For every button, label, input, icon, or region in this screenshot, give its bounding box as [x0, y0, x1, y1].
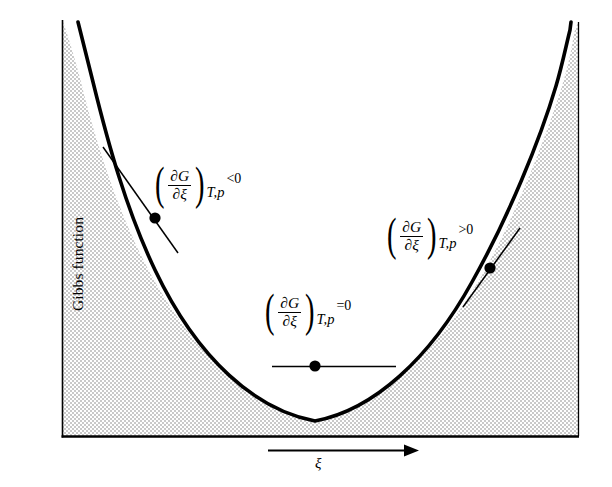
denominator-zero: ∂ξ [278, 313, 301, 329]
marker-zero-slope [309, 360, 320, 371]
x-axis-label: ξ [315, 455, 321, 472]
subscript-zero: T,p [317, 311, 335, 328]
relation-zero: =0 [336, 298, 351, 314]
right-paren-negative: ) [195, 167, 205, 201]
numerator-positive: ∂G [400, 219, 423, 235]
partial-derivative-expression-positive: (∂G∂ξ)T,p>0 [384, 219, 472, 254]
numerator-zero: ∂G [278, 295, 301, 311]
partial-derivative-expression-zero: (∂G∂ξ)T,p=0 [262, 295, 350, 330]
annotation-negative-slope: (∂G∂ξ)T,p<0 [152, 168, 240, 203]
annotation-positive-slope: (∂G∂ξ)T,p>0 [384, 219, 472, 254]
fraction-positive: ∂G∂ξ [399, 219, 424, 254]
left-paren-positive: ( [387, 218, 397, 252]
numerator-negative: ∂G [168, 168, 191, 184]
gibbs-function-figure: Gibbs function ξ (∂G∂ξ)T,p<0 (∂G∂ξ)T,p=0… [0, 0, 612, 487]
denominator-negative: ∂ξ [168, 186, 191, 202]
partial-derivative-expression-negative: (∂G∂ξ)T,p<0 [152, 168, 240, 203]
x-direction-arrow [268, 445, 419, 457]
relation-positive: >0 [458, 222, 473, 238]
marker-positive-slope [484, 262, 495, 273]
left-paren-zero: ( [265, 294, 275, 328]
fraction-negative: ∂G∂ξ [167, 168, 192, 203]
right-paren-positive: ) [427, 218, 437, 252]
gibbs-curve-plot [0, 0, 612, 487]
relation-negative: <0 [226, 171, 241, 187]
y-axis-label: Gibbs function [69, 174, 87, 354]
marker-negative-slope [149, 212, 160, 223]
subscript-negative: T,p [207, 184, 225, 201]
annotation-zero-slope: (∂G∂ξ)T,p=0 [262, 295, 350, 330]
left-paren-negative: ( [155, 167, 165, 201]
denominator-positive: ∂ξ [400, 237, 423, 253]
subscript-positive: T,p [439, 235, 457, 252]
fraction-zero: ∂G∂ξ [277, 295, 302, 330]
right-paren-zero: ) [305, 294, 315, 328]
